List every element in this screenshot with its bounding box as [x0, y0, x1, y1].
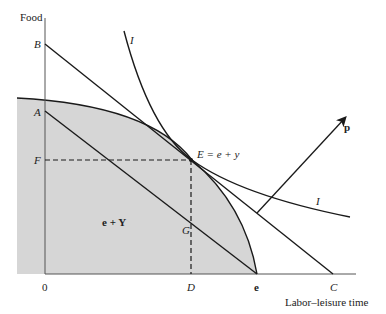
- price-vector: [257, 118, 345, 213]
- label-g: G: [182, 224, 190, 236]
- label-e-endowment: e: [254, 281, 259, 293]
- point-e-marker: [189, 158, 193, 162]
- label-p: p: [344, 121, 350, 133]
- label-f: F: [33, 154, 41, 166]
- label-production-set: e + Y: [102, 216, 126, 228]
- label-c: C: [330, 281, 338, 293]
- y-axis-label: Food: [20, 11, 43, 23]
- label-origin: 0: [42, 281, 48, 293]
- diagram-canvas: Food B A F I I E = e + y p G e + Y 0 D e…: [0, 0, 386, 314]
- x-axis-label: Labor–leisure time: [285, 296, 369, 308]
- label-i-right: I: [315, 195, 321, 207]
- label-e-point: E = e + y: [196, 148, 239, 160]
- label-d: D: [186, 281, 195, 293]
- label-i-top: I: [129, 34, 135, 46]
- label-a: A: [33, 106, 41, 118]
- production-set-region: [17, 98, 257, 274]
- label-b: B: [34, 38, 41, 50]
